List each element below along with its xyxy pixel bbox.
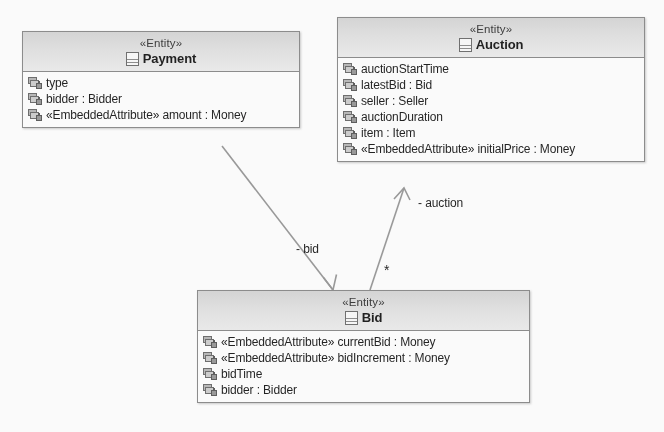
class-stereotype-auction: «Entity»	[342, 23, 640, 36]
class-stereotype-payment: «Entity»	[27, 37, 295, 50]
attribute-row[interactable]: latestBid : Bid	[338, 77, 644, 93]
uml-diagram-canvas: - bid - auction * «Entity» Payment type	[0, 0, 664, 432]
class-icon	[126, 52, 139, 66]
class-stereotype-bid: «Entity»	[202, 296, 525, 309]
class-name-auction: Auction	[476, 37, 524, 52]
class-attributes-payment: type bidder : Bidder «EmbeddedAttribute»…	[23, 72, 299, 127]
attribute-label: «EmbeddedAttribute» bidIncrement : Money	[221, 351, 450, 365]
class-header-payment: «Entity» Payment	[23, 32, 299, 72]
private-attribute-icon	[343, 127, 357, 139]
attribute-label: item : Item	[361, 126, 415, 140]
private-attribute-icon	[343, 95, 357, 107]
attribute-label: bidder : Bidder	[46, 92, 122, 106]
class-attributes-auction: auctionStartTime latestBid : Bid seller …	[338, 58, 644, 161]
private-attribute-icon	[28, 77, 42, 89]
association-label-bid: - bid	[296, 242, 319, 256]
class-box-bid[interactable]: «Entity» Bid «EmbeddedAttribute» current…	[197, 290, 530, 403]
private-attribute-icon	[343, 111, 357, 123]
class-icon	[459, 38, 472, 52]
attribute-label: latestBid : Bid	[361, 78, 432, 92]
class-name-payment: Payment	[143, 51, 197, 66]
attribute-label: «EmbeddedAttribute» currentBid : Money	[221, 335, 435, 349]
attribute-label: auctionStartTime	[361, 62, 449, 76]
attribute-row[interactable]: «EmbeddedAttribute» amount : Money	[23, 107, 299, 123]
attribute-label: bidTime	[221, 367, 262, 381]
private-attribute-icon	[343, 143, 357, 155]
attribute-label: type	[46, 76, 68, 90]
private-attribute-icon	[28, 109, 42, 121]
attribute-label: auctionDuration	[361, 110, 443, 124]
attribute-row[interactable]: «EmbeddedAttribute» initialPrice : Money	[338, 141, 644, 157]
attribute-row[interactable]: item : Item	[338, 125, 644, 141]
attribute-row[interactable]: «EmbeddedAttribute» bidIncrement : Money	[198, 350, 529, 366]
association-payment-bid[interactable]	[222, 146, 337, 290]
association-multiplicity-auction: *	[384, 265, 389, 275]
private-attribute-icon	[28, 93, 42, 105]
attribute-row[interactable]: seller : Seller	[338, 93, 644, 109]
attribute-label: «EmbeddedAttribute» amount : Money	[46, 108, 246, 122]
attribute-row[interactable]: «EmbeddedAttribute» currentBid : Money	[198, 334, 529, 350]
class-header-bid: «Entity» Bid	[198, 291, 529, 331]
attribute-label: «EmbeddedAttribute» initialPrice : Money	[361, 142, 575, 156]
private-attribute-icon	[343, 79, 357, 91]
class-box-auction[interactable]: «Entity» Auction auctionStartTime latest…	[337, 17, 645, 162]
class-header-auction: «Entity» Auction	[338, 18, 644, 58]
attribute-label: seller : Seller	[361, 94, 428, 108]
attribute-row[interactable]: bidTime	[198, 366, 529, 382]
class-icon	[345, 311, 358, 325]
attribute-row[interactable]: auctionDuration	[338, 109, 644, 125]
class-attributes-bid: «EmbeddedAttribute» currentBid : Money «…	[198, 331, 529, 402]
class-name-bid: Bid	[362, 310, 383, 325]
attribute-row[interactable]: bidder : Bidder	[198, 382, 529, 398]
class-name-row-auction: Auction	[342, 37, 640, 52]
attribute-row[interactable]: bidder : Bidder	[23, 91, 299, 107]
private-attribute-icon	[203, 352, 217, 364]
class-name-row-payment: Payment	[27, 51, 295, 66]
attribute-row[interactable]: auctionStartTime	[338, 61, 644, 77]
private-attribute-icon	[203, 384, 217, 396]
private-attribute-icon	[203, 368, 217, 380]
class-box-payment[interactable]: «Entity» Payment type bidder : Bidder	[22, 31, 300, 128]
association-label-auction: - auction	[418, 196, 463, 210]
class-name-row-bid: Bid	[202, 310, 525, 325]
attribute-label: bidder : Bidder	[221, 383, 297, 397]
private-attribute-icon	[343, 63, 357, 75]
attribute-row[interactable]: type	[23, 75, 299, 91]
association-bid-auction[interactable]	[370, 188, 410, 290]
private-attribute-icon	[203, 336, 217, 348]
